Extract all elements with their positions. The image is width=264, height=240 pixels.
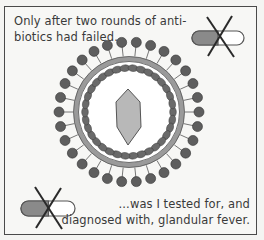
- virus-icon: [54, 37, 204, 186]
- caption-bottom-line1: ...was I tested for, and: [10, 196, 250, 212]
- caption-bottom: ...was I tested for, and diagnosed with,…: [10, 196, 250, 228]
- crossed-out-pill-icon: [192, 16, 244, 57]
- caption-bottom-line2: diagnosed with, glandular fever.: [10, 212, 250, 228]
